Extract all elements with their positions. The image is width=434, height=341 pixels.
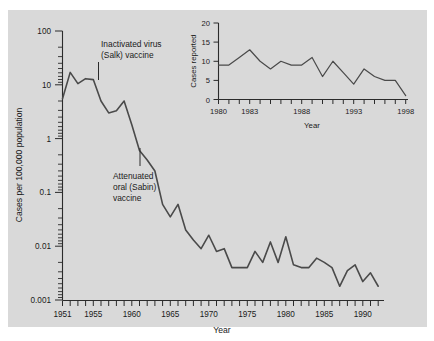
x-tick-label-1980: 1980 (277, 310, 296, 319)
x-tick-label-1990: 1990 (354, 310, 373, 319)
x-axis-ticks (63, 301, 379, 307)
inset-x-axis-title: Year (304, 121, 320, 130)
annotation-sabin-line1: Attenuated (113, 171, 154, 181)
incidence-line (63, 72, 379, 286)
x-tick-label-1960: 1960 (123, 310, 142, 319)
annotation-sabin-line3: vaccine (113, 193, 142, 203)
annotation-salk-line1: Inactivated virus (101, 39, 162, 49)
inset-y-tick-15: 15 (202, 38, 210, 47)
figure-container: 100 10 1 0.1 0.01 0.001 Cases per 100,00… (0, 0, 434, 341)
inset-y-ticks (214, 23, 219, 100)
annotation-sabin: Attenuated oral (Sabin) vaccine (113, 148, 157, 203)
x-tick-label-1985: 1985 (315, 310, 334, 319)
annotation-salk-line2: (Salk) vaccine (101, 50, 154, 60)
inset-x-tick-1980: 1980 (210, 107, 227, 116)
inset-x-tick-1993: 1993 (345, 107, 362, 116)
y-axis-major-ticks (55, 31, 63, 300)
inset-y-tick-0: 0 (206, 96, 210, 105)
x-tick-label-1955: 1955 (84, 310, 103, 319)
inset-y-axis-title: Cases reported (189, 34, 198, 87)
inset-x-tick-1988: 1988 (293, 107, 310, 116)
inset-x-ticks (219, 100, 406, 105)
inset-x-tick-1983: 1983 (241, 107, 258, 116)
x-tick-label-1965: 1965 (161, 310, 180, 319)
x-axis-title: Year (213, 325, 231, 335)
inset-plot: 20 15 10 5 0 Cases reported (189, 19, 414, 130)
inset-cases-line (219, 50, 406, 96)
y-tick-label-10: 10 (42, 81, 52, 90)
y-tick-label-100: 100 (37, 27, 51, 36)
y-tick-label-0.001: 0.001 (31, 296, 52, 305)
annotation-salk: Inactivated virus (Salk) vaccine (99, 39, 162, 80)
y-tick-label-0.1: 0.1 (40, 188, 52, 197)
y-axis-title: Cases per 100,000 population (14, 107, 24, 222)
inset-y-tick-20: 20 (202, 19, 210, 28)
inset-y-tick-10: 10 (202, 57, 210, 66)
y-tick-label-0.01: 0.01 (35, 242, 51, 251)
annotation-sabin-line2: oral (Sabin) (113, 182, 157, 192)
inset-y-tick-5: 5 (206, 76, 210, 85)
x-tick-label-1951: 1951 (53, 310, 72, 319)
inset-x-tick-1998: 1998 (397, 107, 414, 116)
x-tick-label-1970: 1970 (200, 310, 219, 319)
polio-incidence-chart: 100 10 1 0.1 0.01 0.001 Cases per 100,00… (0, 0, 434, 341)
main-plot: 100 10 1 0.1 0.01 0.001 Cases per 100,00… (14, 27, 384, 335)
x-tick-label-1975: 1975 (238, 310, 257, 319)
y-tick-label-1: 1 (46, 135, 51, 144)
